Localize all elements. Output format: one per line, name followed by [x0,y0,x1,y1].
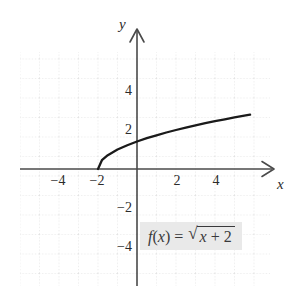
function-equation-label: f(x)=√x + 2 [140,222,242,250]
equation-argument: x [158,228,165,245]
radicand-variable: x [200,228,207,245]
x-tick-label-4: 4 [209,174,223,188]
x-tick-label-minus2: −2 [86,174,108,188]
x-tick-label-minus4: −4 [47,174,69,188]
x-axis-label: x [277,177,284,192]
x-tick-label-2: 2 [170,174,184,188]
equation-equals-sign: = [174,228,183,245]
y-tick-label-minus2: −2 [110,201,132,215]
radicand: x + 2 [197,226,235,245]
graph-figure: −4 −2 2 4 4 2 −2 −4 y x f(x)=√x + 2 [0,0,297,304]
y-tick-label-2: 2 [118,123,132,137]
radical-sign-icon: √ [188,225,197,242]
plot-canvas [0,0,297,304]
y-tick-label-4: 4 [118,84,132,98]
radicand-constant: 2 [224,228,232,245]
radical-expression: √x + 2 [187,226,234,245]
radicand-plus-sign: + [211,228,220,245]
y-tick-label-minus4: −4 [110,240,132,254]
y-axis-label: y [119,17,126,32]
equation-close-paren: ) [165,228,170,245]
